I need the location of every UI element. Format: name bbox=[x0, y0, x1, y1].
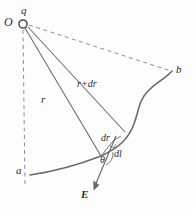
radius-line-r bbox=[25, 28, 101, 156]
label-path-end-b: b bbox=[176, 64, 182, 75]
vertical-dashed-reference-line bbox=[23, 30, 25, 186]
diagram-svg bbox=[0, 0, 194, 214]
field-vector-E-line bbox=[94, 136, 116, 188]
label-angle-theta: θ bbox=[100, 155, 105, 165]
label-radius-plus-dr: r+dr bbox=[77, 79, 97, 89]
label-radial-element-dr: dr bbox=[101, 133, 110, 143]
figure-canvas: O q b a r r+dr dr dl θ E bbox=[0, 0, 194, 214]
label-field-vector-E: E bbox=[81, 189, 88, 200]
label-path-start-a: a bbox=[16, 165, 22, 176]
charge-marker-circle bbox=[19, 20, 27, 28]
dashed-chord-O-to-b bbox=[29, 25, 171, 71]
label-radius-r: r bbox=[41, 94, 45, 105]
label-origin-O: O bbox=[4, 16, 13, 28]
label-path-element-dl: dl bbox=[114, 149, 122, 159]
label-charge-q: q bbox=[21, 5, 27, 16]
